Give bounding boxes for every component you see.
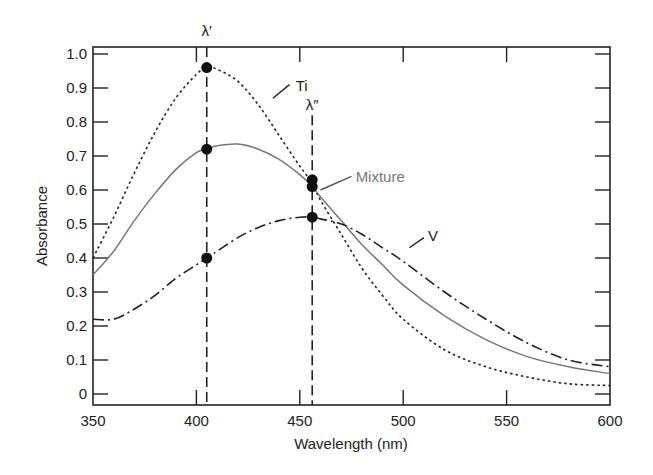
series-line-mixture <box>93 144 610 374</box>
y-tick-label: 1.0 <box>66 45 87 62</box>
ti-label: Ti <box>296 77 308 94</box>
v-leader-line <box>409 238 423 248</box>
absorbance-chart: 00.10.20.30.40.50.60.70.80.91.0 35040045… <box>0 0 653 475</box>
mixture-leader-line <box>320 176 351 190</box>
mixture-label: Mixture <box>356 168 405 185</box>
ti-leader-line <box>273 85 290 99</box>
x-tick-label: 500 <box>391 412 416 429</box>
data-point-mixture <box>201 144 212 155</box>
x-axis-title: Wavelength (nm) <box>294 435 408 452</box>
v-label: V <box>428 227 438 244</box>
data-point-v <box>307 212 318 223</box>
data-series <box>93 67 610 385</box>
lambda-prime-label: λ′ <box>202 22 213 39</box>
y-tick-label: 0 <box>79 385 87 402</box>
y-tick-label: 0.4 <box>66 249 87 266</box>
y-tick-label: 0.8 <box>66 113 87 130</box>
x-tick-label: 350 <box>80 412 105 429</box>
data-point-ti <box>201 62 212 73</box>
plot-frame <box>93 47 610 405</box>
y-axis-title: Absorbance <box>33 186 50 266</box>
plot-border <box>93 47 610 405</box>
y-tick-label: 0.3 <box>66 283 87 300</box>
y-tick-label: 0.7 <box>66 147 87 164</box>
x-axis-ticks: 350400450500550600 <box>80 47 622 429</box>
y-tick-label: 0.1 <box>66 351 87 368</box>
y-tick-label: 0.2 <box>66 317 87 334</box>
x-tick-label: 600 <box>597 412 622 429</box>
y-tick-label: 0.6 <box>66 181 87 198</box>
x-tick-label: 450 <box>287 412 312 429</box>
data-point-v <box>201 253 212 264</box>
y-tick-label: 0.9 <box>66 79 87 96</box>
series-line-v <box>93 217 610 367</box>
series-line-ti <box>93 67 610 385</box>
y-tick-label: 0.5 <box>66 215 87 232</box>
x-tick-label: 400 <box>184 412 209 429</box>
data-point-mixture <box>307 181 318 192</box>
wavelength-marker-lines <box>207 47 312 405</box>
x-tick-label: 550 <box>494 412 519 429</box>
lambda-double-prime-label: λ″ <box>306 96 320 113</box>
